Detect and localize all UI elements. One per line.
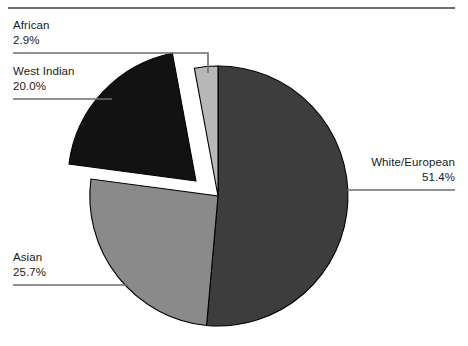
slice-label-white-european-name: White/European	[371, 155, 455, 170]
slice-label-white-european-value: 51.4%	[371, 170, 455, 185]
slice-label-african-value: 2.9%	[13, 33, 50, 48]
slice-label-west-indian-name: West Indian	[13, 64, 75, 79]
pie-chart-figure: African 2.9% West Indian 20.0% Asian 25.…	[0, 0, 468, 346]
pie-slice-white-european[interactable]	[207, 66, 348, 326]
slice-label-asian-name: Asian	[13, 250, 46, 265]
pie-slice-west-indian[interactable]	[69, 53, 196, 181]
pie-slice-asian[interactable]	[90, 179, 218, 326]
slice-label-asian-value: 25.7%	[13, 265, 46, 280]
slice-label-african-name: African	[13, 18, 50, 33]
slice-label-west-indian: West Indian 20.0%	[13, 64, 75, 94]
slice-label-west-indian-value: 20.0%	[13, 79, 75, 94]
pie-slice-african[interactable]	[194, 66, 218, 196]
slice-label-asian: Asian 25.7%	[13, 250, 46, 280]
slice-label-african: African 2.9%	[13, 18, 50, 48]
slice-label-white-european: White/European 51.4%	[371, 155, 455, 185]
